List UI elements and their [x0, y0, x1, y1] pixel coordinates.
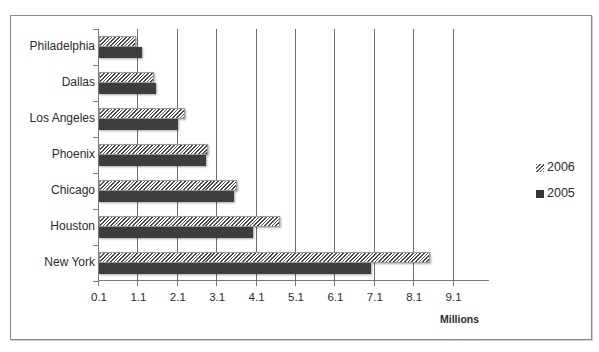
x-tick-mark	[374, 281, 375, 286]
category-label: Phoenix	[0, 147, 95, 161]
x-tick-mark	[413, 281, 414, 286]
y-tick-mark	[93, 29, 98, 30]
x-tick-label: 8.1	[399, 291, 429, 303]
y-tick-mark	[93, 209, 98, 210]
x-axis-line	[98, 280, 489, 281]
gridline	[334, 29, 335, 281]
x-tick-label: 2.1	[163, 291, 193, 303]
x-tick-label: 5.1	[281, 291, 311, 303]
y-tick-mark	[93, 101, 98, 102]
gridline	[413, 29, 414, 281]
y-tick-mark	[93, 137, 98, 138]
legend-item-2005: 2005	[536, 186, 575, 212]
bar-2005	[99, 83, 156, 94]
bar-2005	[99, 191, 234, 202]
x-tick-mark	[295, 281, 296, 286]
x-tick-label: 6.1	[320, 291, 350, 303]
legend-item-2006: 2006	[536, 160, 575, 186]
bar-2005	[99, 119, 178, 130]
plot-area	[98, 29, 489, 281]
gridline	[453, 29, 454, 281]
x-tick-mark	[453, 281, 454, 286]
x-tick-mark	[334, 281, 335, 286]
y-tick-mark	[93, 281, 98, 282]
bar-2006	[99, 72, 154, 83]
bar-2006	[99, 216, 280, 227]
legend-label: 2006	[547, 160, 575, 174]
x-tick-label: 9.1	[439, 291, 469, 303]
gridline	[256, 29, 257, 281]
x-tick-mark	[177, 281, 178, 286]
gridline	[216, 29, 217, 281]
x-tick-mark	[216, 281, 217, 286]
x-axis-title: Millions	[440, 313, 479, 325]
x-tick-label: 4.1	[242, 291, 272, 303]
bar-2005	[99, 263, 371, 274]
y-tick-mark	[93, 173, 98, 174]
x-tick-mark	[137, 281, 138, 286]
bar-2006	[99, 180, 237, 191]
hatch-swatch-icon	[536, 164, 544, 172]
category-label: Los Angeles	[0, 111, 95, 125]
x-tick-label: 7.1	[360, 291, 390, 303]
category-label: Dallas	[0, 75, 95, 89]
x-tick-label: 1.1	[123, 291, 153, 303]
x-tick-label: 0.1	[84, 291, 114, 303]
y-tick-mark	[93, 65, 98, 66]
gridline	[295, 29, 296, 281]
x-tick-label: 3.1	[202, 291, 232, 303]
bar-2005	[99, 47, 142, 58]
gridline	[374, 29, 375, 281]
legend: 2006 2005	[536, 160, 575, 212]
legend-label: 2005	[547, 186, 575, 200]
bar-2006	[99, 144, 208, 155]
category-label: Houston	[0, 219, 95, 233]
bar-2006	[99, 36, 136, 47]
category-label: Philadelphia	[0, 39, 95, 53]
x-tick-mark	[256, 281, 257, 286]
bar-2006	[99, 252, 430, 263]
bar-2005	[99, 155, 206, 166]
bar-2006	[99, 108, 185, 119]
x-tick-mark	[98, 281, 99, 286]
dotted-swatch-icon	[536, 190, 544, 198]
bar-2005	[99, 227, 253, 238]
category-label: Chicago	[0, 183, 95, 197]
y-tick-mark	[93, 245, 98, 246]
category-label: New York	[0, 255, 95, 269]
